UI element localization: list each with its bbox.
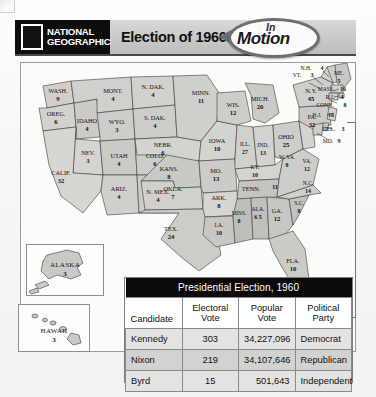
results-table: Presidential Election, 1960 Candidate El… — [125, 278, 352, 392]
cell-electoral: 15 — [182, 371, 239, 392]
alaska-label: ALASKA — [27, 261, 103, 269]
column-header-party-line1: Political — [297, 303, 351, 313]
state-label-kans: KANS. — [160, 165, 179, 172]
cell-candidate: Nixon — [126, 350, 183, 371]
page-title: Election of 1960 — [121, 29, 227, 45]
state-votes-fla: 10 — [290, 265, 297, 272]
state-label-mass: MASS. — [318, 86, 335, 92]
cell-party: Republican — [295, 350, 352, 371]
table-row[interactable]: Kennedy 303 34,227,096 Democrat — [126, 329, 352, 350]
state-label-nh: N.H. — [301, 65, 312, 71]
state-label-va: VA. — [303, 158, 312, 164]
state-votes-del: 3 — [342, 126, 345, 132]
state-label-wyo: WYO. — [109, 118, 126, 125]
state-label-ky: KY. — [251, 164, 260, 170]
brand-wordmark: NATIONAL GEOGRAPHIC — [47, 27, 111, 47]
state-votes-pa: 32 — [309, 121, 316, 128]
state-label-sdak: S. DAK. — [144, 114, 166, 121]
state-votes-me: 5 — [338, 78, 341, 84]
state-label-md: MD. — [323, 138, 334, 144]
state-label-wash: WASH. — [48, 87, 68, 94]
state-votes-tenn: 11 — [272, 183, 278, 190]
state-label-iowa: IOWA — [209, 137, 226, 144]
page-background: NATIONAL GEOGRAPHIC Election of 1960 Mot… — [0, 0, 376, 397]
column-header-popular-line2: Vote — [240, 313, 294, 323]
state-votes-mass: 16 — [340, 86, 346, 92]
state-label-wva: W. VA. — [279, 154, 296, 160]
state-votes-iowa: 10 — [214, 145, 221, 152]
state-label-del: DEL. — [323, 126, 336, 132]
state-votes-miss: 8 — [238, 218, 241, 224]
state-votes-la: 10 — [216, 230, 222, 236]
state-label-ohio: OHIO — [278, 133, 294, 140]
state-votes-mo: 13 — [213, 175, 220, 182]
state-label-ny: N.Y. — [305, 87, 317, 94]
state-label-mont: MONT. — [103, 87, 123, 94]
state-label-okla: OKLA. — [163, 185, 182, 192]
state-label-nj: N.J. — [312, 112, 322, 118]
state-votes-conn: 8 — [344, 102, 347, 108]
state-votes-wva: 8 — [286, 162, 289, 168]
state-votes-tex: 24 — [168, 233, 175, 240]
state-label-ga: GA. — [272, 207, 283, 214]
state-votes-minn: 11 — [198, 97, 204, 104]
cell-popular: 34,107,646 — [239, 350, 296, 371]
state-label-nebr: NEBR. — [154, 141, 173, 148]
state-votes-md: 9 — [338, 138, 341, 144]
cell-electoral: 219 — [182, 350, 239, 371]
hawaii-inset[interactable]: HAWAII 3 — [18, 304, 90, 352]
state-votes-nj: 16 — [328, 112, 334, 118]
state-votes-ga: 12 — [274, 215, 281, 222]
alaska-inset[interactable]: ALASKA 3 — [26, 244, 104, 296]
state-label-ariz: ARIZ. — [111, 185, 128, 192]
state-label-fla: FLA. — [286, 257, 300, 264]
cell-popular: 501,643 — [239, 371, 296, 392]
hawaii-votes: 3 — [19, 336, 89, 344]
column-header-candidate: Candidate — [126, 298, 183, 329]
state-votes-wis: 12 — [230, 109, 237, 116]
state-label-mo: MO. — [210, 167, 222, 174]
state-label-wis: WIS. — [226, 101, 240, 108]
in-motion-badge[interactable]: Motion In — [228, 18, 320, 58]
state-label-ind: IND. — [257, 142, 269, 148]
column-header-electoral-vote: Electoral Vote — [182, 298, 239, 329]
header-bar: NATIONAL GEOGRAPHIC Election of 1960 Mot… — [15, 20, 356, 56]
state-votes-va: 12 — [304, 166, 310, 172]
column-header-electoral-line2: Vote — [184, 313, 238, 323]
state-label-la: LA. — [215, 222, 224, 228]
state-label-ill: ILL. — [240, 141, 251, 147]
badge-in-label: In — [266, 21, 275, 33]
cell-popular: 34,227,096 — [239, 329, 296, 350]
state-label-minn: MINN. — [192, 89, 211, 96]
state-label-ala: ALA. — [252, 206, 265, 212]
state-votes-ind: 13 — [260, 150, 266, 156]
state-votes-ohio: 25 — [283, 141, 290, 148]
state-label-calif: CALIF. — [51, 169, 71, 176]
state-label-vt: VT. — [293, 72, 302, 78]
state-label-oreg: OREG. — [47, 110, 66, 117]
column-header-popular-vote: Popular Vote — [239, 298, 296, 329]
election-results-table[interactable]: Presidential Election, 1960 Candidate El… — [124, 277, 353, 383]
table-row[interactable]: Byrd 15 501,643 Independent — [126, 371, 352, 392]
state-votes-vt: 3 — [311, 72, 314, 78]
column-header-candidate-line1: Candidate — [131, 314, 173, 324]
cell-candidate: Kennedy — [126, 329, 183, 350]
state-label-tenn: TENN. — [242, 185, 261, 192]
state-label-sc: S.C. — [294, 200, 304, 206]
state-votes-ri: 4 — [341, 94, 344, 100]
hawaii-label: HAWAII — [19, 327, 89, 335]
badge-motion-label: Motion — [237, 29, 290, 49]
page-corner-curl — [0, 0, 15, 13]
column-header-party-line2: Party — [297, 313, 351, 323]
alaska-votes: 3 — [27, 270, 103, 278]
state-votes-ky: 10 — [252, 172, 258, 178]
state-votes-ill: 27 — [242, 149, 248, 155]
state-label-ri: R.I. — [326, 94, 335, 100]
state-votes-nh: 4 — [321, 65, 324, 71]
cell-party: Independent — [295, 371, 352, 392]
state-votes-sc: 8 — [298, 208, 301, 214]
table-row[interactable]: Nixon 219 34,107,646 Republican — [126, 350, 352, 371]
brand-line-2: GEOGRAPHIC — [47, 37, 111, 47]
cell-electoral: 303 — [182, 329, 239, 350]
column-header-electoral-line1: Electoral — [184, 303, 238, 313]
